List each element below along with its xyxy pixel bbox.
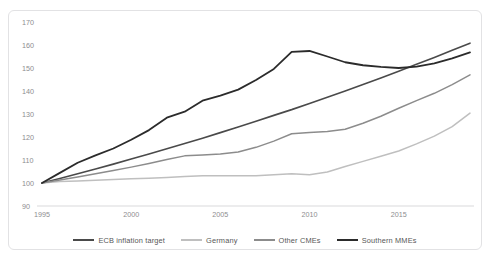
series-line bbox=[42, 43, 470, 183]
legend-line-swatch bbox=[337, 239, 358, 241]
legend-label: ECB inflation target bbox=[98, 236, 165, 245]
legend-label: Germany bbox=[206, 236, 237, 245]
x-axis-tick-label: 2010 bbox=[302, 210, 318, 219]
legend-item[interactable]: Other CMEs bbox=[254, 236, 321, 245]
y-axis-tick-label: 170 bbox=[22, 18, 34, 27]
y-axis-tick-label: 140 bbox=[22, 87, 34, 96]
y-axis-tick-label: 120 bbox=[22, 133, 34, 142]
x-axis-tick-label: 2005 bbox=[212, 210, 228, 219]
legend-line-swatch bbox=[73, 239, 94, 241]
series-line bbox=[42, 51, 470, 183]
y-axis-tick-label: 100 bbox=[22, 179, 34, 188]
y-axis-tick-label: 150 bbox=[22, 64, 34, 73]
legend-line-swatch bbox=[254, 239, 275, 241]
y-axis-tick-label: 160 bbox=[22, 41, 34, 50]
x-axis-tick-label: 1995 bbox=[34, 210, 50, 219]
plot-svg: 9010011012013014015016017019952000200520… bbox=[0, 0, 490, 258]
x-axis-tick-label: 2000 bbox=[123, 210, 139, 219]
x-axis-tick-label: 2015 bbox=[391, 210, 407, 219]
legend-label: Southern MMEs bbox=[362, 236, 417, 245]
y-axis-tick-label: 90 bbox=[22, 202, 30, 211]
y-axis-tick-label: 130 bbox=[22, 110, 34, 119]
chart-legend: ECB inflation targetGermanyOther CMEsSou… bbox=[0, 230, 490, 250]
line-chart: 9010011012013014015016017019952000200520… bbox=[0, 0, 490, 258]
legend-item[interactable]: Southern MMEs bbox=[337, 236, 417, 245]
legend-line-swatch bbox=[181, 239, 202, 241]
legend-item[interactable]: Germany bbox=[181, 236, 237, 245]
legend-label: Other CMEs bbox=[279, 236, 321, 245]
legend-item[interactable]: ECB inflation target bbox=[73, 236, 165, 245]
y-axis-tick-label: 110 bbox=[22, 156, 33, 165]
plot-area: 9010011012013014015016017019952000200520… bbox=[0, 0, 490, 258]
